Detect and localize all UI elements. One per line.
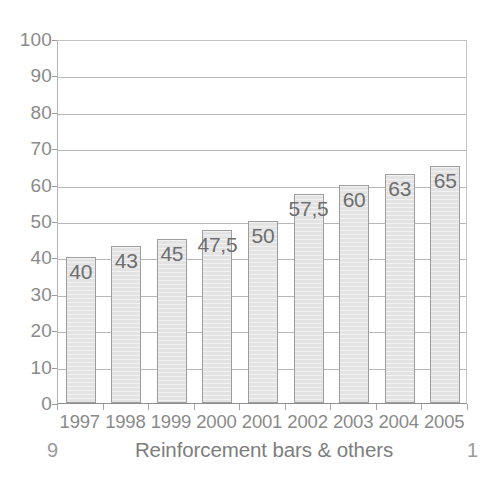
x-axis-tick-label: 2004 xyxy=(376,410,422,434)
y-axis-tick-label: 10 xyxy=(6,358,52,377)
x-axis-tick-label: 1999 xyxy=(148,410,194,434)
bar: 45 xyxy=(157,239,187,403)
y-axis-tick-label: 0 xyxy=(6,394,52,413)
y-axis-tick-label: 100 xyxy=(6,30,52,49)
gridline xyxy=(58,150,466,151)
y-axis-tick-label: 30 xyxy=(6,285,52,304)
bar-value-label: 47,5 xyxy=(197,234,237,255)
bar-value-label: 57,5 xyxy=(289,198,329,219)
y-axis-tick-label: 50 xyxy=(6,212,52,231)
x-axis-tick-label: 2003 xyxy=(330,410,376,434)
chart-page: 0102030405060708090100 40434547,55057,56… xyxy=(0,0,496,479)
bar: 47,5 xyxy=(202,230,232,403)
chart-caption: Reinforcement bars & others xyxy=(0,437,496,463)
bar-value-label: 45 xyxy=(160,243,183,264)
bar-value-label: 60 xyxy=(343,189,366,210)
bar: 65 xyxy=(430,166,460,403)
bar-value-label: 65 xyxy=(434,170,457,191)
x-axis-tick-label: 2005 xyxy=(421,410,467,434)
x-axis-tick-label: 2000 xyxy=(194,410,240,434)
bar: 60 xyxy=(339,185,369,403)
plot-area: 40434547,55057,5606365 xyxy=(57,40,467,404)
x-axis-tick-mark xyxy=(467,404,468,410)
bar-value-label: 63 xyxy=(388,178,411,199)
bar-value-label: 50 xyxy=(252,225,275,246)
x-axis-tick-label: 1998 xyxy=(103,410,149,434)
bar: 57,5 xyxy=(294,194,324,403)
y-axis-tick-label: 40 xyxy=(6,248,52,267)
y-axis-tick-label: 70 xyxy=(6,139,52,158)
x-axis-tick-label: 2001 xyxy=(239,410,285,434)
y-axis-tick-label: 80 xyxy=(6,103,52,122)
x-axis-tick-label: 1997 xyxy=(57,410,103,434)
y-axis-tick-label: 20 xyxy=(6,321,52,340)
gridline xyxy=(58,77,466,78)
bar: 50 xyxy=(248,221,278,403)
x-axis-tick-label: 2002 xyxy=(285,410,331,434)
bar-value-label: 43 xyxy=(115,250,138,271)
y-axis-tick-label: 90 xyxy=(6,66,52,85)
x-axis-tick-labels: 199719981999200020012002200320042005 xyxy=(57,410,467,436)
bar: 43 xyxy=(111,246,141,403)
bar: 40 xyxy=(66,257,96,403)
bar-value-label: 40 xyxy=(69,261,92,282)
caption-row: 9 Reinforcement bars & others 1 xyxy=(0,437,496,467)
gridline xyxy=(58,114,466,115)
y-axis-tick-labels: 0102030405060708090100 xyxy=(0,40,52,404)
page-number-right: 1 xyxy=(467,437,478,463)
bar: 63 xyxy=(385,174,415,403)
y-axis-tick-label: 60 xyxy=(6,176,52,195)
